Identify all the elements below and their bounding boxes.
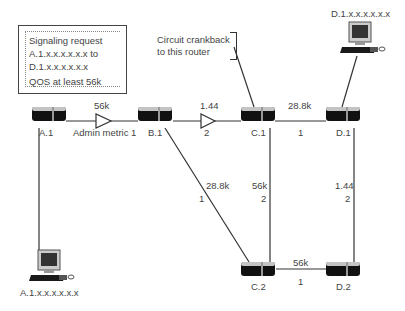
router-d1[interactable] xyxy=(325,106,361,122)
router-label-a1: A.1 xyxy=(39,128,53,138)
link-b1-c1-metric: 2 xyxy=(204,128,209,138)
link-c2-d2-bandwidth: 56k xyxy=(293,258,308,268)
host-a1[interactable] xyxy=(29,249,75,285)
link-c2-d2-metric: 1 xyxy=(298,277,303,287)
info-line-4: QOS at least 56k xyxy=(29,76,101,87)
router-label-b1: B.1 xyxy=(148,128,162,138)
router-label-d1: D.1 xyxy=(336,128,351,138)
triangle-marker-ab xyxy=(96,114,111,128)
link-b1-c2-bandwidth: 28.8k xyxy=(206,181,229,191)
link-d1-host xyxy=(342,56,357,107)
link-a1-b1-metric: Admin metric 1 xyxy=(73,128,136,138)
callout-line-2: to this router xyxy=(157,47,210,57)
router-label-c1: C.1 xyxy=(251,128,266,138)
info-line-1: Signaling request xyxy=(29,35,102,46)
link-d1-d2-bandwidth: 1.44 xyxy=(335,181,354,191)
link-c1-c2-metric: 2 xyxy=(261,194,266,204)
router-icon xyxy=(240,106,276,122)
link-b1-c2 xyxy=(165,128,249,262)
router-icon xyxy=(31,106,67,122)
router-icon xyxy=(137,106,173,122)
computer-icon xyxy=(29,249,75,285)
host-label-a1: A.1.x.x.x.x.x.x xyxy=(20,288,79,298)
router-icon xyxy=(240,261,276,277)
host-label-d1: D.1.x.x.x.x.x.x xyxy=(331,9,390,19)
router-d2[interactable] xyxy=(325,261,361,277)
link-a1-b1-bandwidth: 56k xyxy=(94,101,109,111)
info-line-3: D.1.x.x.x.x.x.x xyxy=(29,61,88,72)
callout-bracket xyxy=(230,32,237,60)
info-line-2: A.1.x.x.x.x.x.x to xyxy=(29,48,98,59)
host-d1[interactable] xyxy=(340,21,386,57)
link-d1-d2-metric: 2 xyxy=(345,194,350,204)
router-b1[interactable] xyxy=(137,106,173,122)
link-c1-d1-metric: 1 xyxy=(298,128,303,138)
router-label-d2: D.2 xyxy=(336,282,351,292)
triangle-marker-bc xyxy=(201,114,215,128)
link-b1-c1-bandwidth: 1.44 xyxy=(200,101,219,111)
router-icon xyxy=(325,106,361,122)
router-a1[interactable] xyxy=(31,106,67,122)
callout-leader xyxy=(234,47,254,107)
callout-line-1: Circuit crankback xyxy=(157,35,230,45)
computer-icon xyxy=(340,21,386,57)
link-b1-c2-metric: 1 xyxy=(199,194,204,204)
router-c1[interactable] xyxy=(240,106,276,122)
router-label-c2: C.2 xyxy=(251,282,266,292)
router-c2[interactable] xyxy=(240,261,276,277)
link-c1-c2-bandwidth: 56k xyxy=(252,181,267,191)
router-icon xyxy=(325,261,361,277)
link-c1-d1-bandwidth: 28.8k xyxy=(288,101,311,111)
signaling-request-box: Signaling request A.1.x.x.x.x.x.x to D.1… xyxy=(18,25,127,94)
